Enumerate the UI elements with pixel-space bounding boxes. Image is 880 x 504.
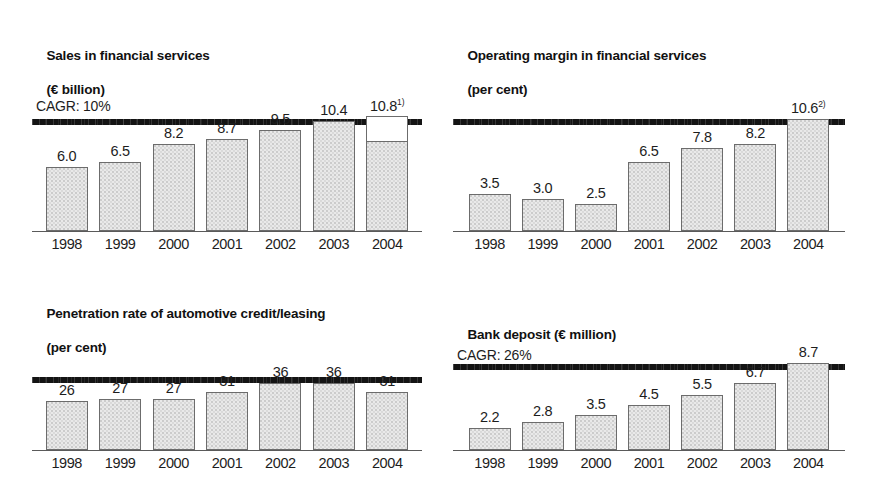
bar-slot: 2.2 [463, 336, 516, 450]
bar-value-label: 10.81) [370, 94, 405, 114]
bar-value-label: 27 [166, 380, 182, 396]
x-axis-label: 2000 [147, 454, 200, 473]
bar[interactable] [206, 392, 248, 450]
x-axis-label: 2003 [729, 235, 782, 254]
bar[interactable] [99, 399, 141, 450]
bar-slot: 8.7 [200, 85, 253, 231]
x-axis-label: 2001 [622, 454, 675, 473]
bar-slot: 5.5 [676, 336, 729, 450]
bar-slot: 26 [40, 343, 93, 450]
bar-slot: 10.62) [782, 85, 835, 231]
x-axis-label: 1998 [40, 454, 93, 473]
bar[interactable] [628, 162, 670, 231]
panel-title-line1: Penetration rate of automotive credit/le… [46, 306, 325, 321]
bar-value-label: 31 [219, 373, 235, 389]
bar-value-label: 10.4 [320, 102, 347, 118]
bar-chart-plot: 3.53.02.56.57.88.210.62) 199819992000200… [453, 85, 845, 232]
bar[interactable] [313, 383, 355, 451]
bar-slot: 8.7 [782, 336, 835, 450]
bar-slot: 3.0 [516, 85, 569, 231]
bar-value-label: 9.5 [271, 111, 290, 127]
bar-value-label: 27 [112, 380, 128, 396]
x-axis-label: 2000 [147, 235, 200, 254]
bar-value-label: 7.8 [692, 129, 711, 145]
panel-operating-margin-financial-services: Operating margin in financial services (… [453, 30, 845, 125]
bar[interactable] [206, 139, 248, 231]
bar[interactable] [366, 116, 408, 231]
x-axis-label: 1999 [93, 454, 146, 473]
x-axis-label: 2004 [361, 454, 414, 473]
bar-slot: 27 [93, 343, 146, 450]
bar-slot: 36 [254, 343, 307, 450]
bar[interactable] [313, 121, 355, 231]
bar-chart-plot: 2.22.83.54.55.56.78.7 199819992000200120… [453, 336, 845, 461]
bar-value-label: 8.7 [799, 344, 818, 360]
bar-value-label: 6.7 [746, 364, 765, 380]
bar-slot: 2.5 [569, 85, 622, 231]
bar-value-label: 2.8 [533, 403, 552, 419]
bar[interactable] [522, 199, 564, 231]
bar-slot: 6.7 [729, 336, 782, 450]
bar-value-label: 36 [273, 364, 289, 380]
bar-value-label: 8.2 [164, 125, 183, 141]
bar-slot: 31 [200, 343, 253, 450]
bar-slot: 6.5 [93, 85, 146, 231]
bar[interactable] [366, 392, 408, 450]
bar[interactable] [575, 204, 617, 231]
bar-slot: 6.0 [40, 85, 93, 231]
x-axis-label: 2004 [782, 235, 835, 254]
bar-slot: 36 [307, 343, 360, 450]
bar[interactable] [734, 383, 776, 450]
x-axis-label: 1999 [93, 235, 146, 254]
bar-slot: 3.5 [463, 85, 516, 231]
bar[interactable] [681, 395, 723, 450]
bar-value-label: 3.5 [480, 175, 499, 191]
panel-penetration-rate-automotive-credit-leasing: Penetration rate of automotive credit/le… [32, 288, 422, 383]
bar-slot: 8.2 [147, 85, 200, 231]
bar[interactable] [259, 130, 301, 231]
panel-title-line1: Sales in financial services [46, 48, 209, 63]
bar-slot: 31 [361, 343, 414, 450]
x-axis-label: 1998 [463, 235, 516, 254]
bar-slot: 2.8 [516, 336, 569, 450]
bar-value-label: 2.5 [586, 185, 605, 201]
x-axis-label: 1998 [40, 235, 93, 254]
footnote-marker: 2) [818, 99, 826, 109]
bar-value-label: 26 [59, 382, 75, 398]
bar-value-label: 8.7 [217, 120, 236, 136]
bar[interactable] [153, 399, 195, 450]
x-axis-label: 2001 [200, 454, 253, 473]
bar-chart-plot: 26272731363631 1998199920002001200220032… [32, 343, 422, 468]
bar-slot: 8.2 [729, 85, 782, 231]
bar[interactable] [99, 162, 141, 231]
x-axis-label: 2001 [622, 235, 675, 254]
axis-baseline [453, 231, 845, 232]
x-axis-label: 2002 [254, 454, 307, 473]
bar[interactable] [46, 401, 88, 450]
bar[interactable] [787, 363, 829, 450]
bar[interactable] [469, 428, 511, 450]
x-axis-label: 1999 [516, 235, 569, 254]
bar[interactable] [153, 144, 195, 231]
x-axis-label: 2003 [307, 454, 360, 473]
x-axis-label: 2003 [307, 235, 360, 254]
bar[interactable] [575, 415, 617, 450]
bar[interactable] [259, 383, 301, 451]
panel-sales-financial-services: Sales in financial services (€ billion) … [32, 30, 422, 125]
x-axis-label: 2001 [200, 235, 253, 254]
bar[interactable] [734, 144, 776, 231]
bar[interactable] [46, 167, 88, 231]
bar[interactable] [787, 119, 829, 231]
bar-value-label: 10.62) [791, 96, 826, 116]
panel-title-line1: Operating margin in financial services [467, 48, 706, 63]
bar[interactable] [628, 405, 670, 450]
bar[interactable] [469, 194, 511, 231]
bar-value-label: 3.5 [586, 396, 605, 412]
bar-chart-plot: 6.06.58.28.79.510.410.81) 19981999200020… [32, 85, 422, 232]
bar[interactable] [681, 148, 723, 231]
bar-value-label: 6.0 [57, 148, 76, 164]
bar[interactable] [522, 422, 564, 450]
bar-slot: 10.4 [307, 85, 360, 231]
bar-slot: 10.81) [361, 85, 414, 231]
bar-value-label: 5.5 [692, 376, 711, 392]
